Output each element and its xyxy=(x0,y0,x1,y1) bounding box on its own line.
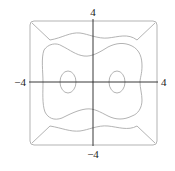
y-max-label: 4 xyxy=(90,6,96,18)
y-min-label: −4 xyxy=(87,148,99,160)
inner-loop-contour xyxy=(42,43,142,119)
lower-band-contour xyxy=(32,126,155,143)
x-min-label: −4 xyxy=(14,76,26,88)
x-max-label: 4 xyxy=(161,76,167,88)
upper-band-contour xyxy=(32,23,155,40)
contour-plot: 4 −4 −4 4 xyxy=(0,0,175,171)
